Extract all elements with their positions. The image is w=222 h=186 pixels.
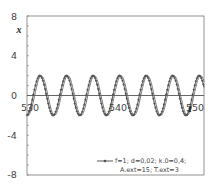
y-tick-8: 8 [11,11,17,22]
y-tick-4: 4 [11,50,17,61]
legend-line2: A.ext=15; T.ext=3 [120,166,179,174]
y-axis-label: x [16,24,22,35]
y-tick-neg4: -4 [7,130,16,141]
x-tick-540: 540 [109,102,127,113]
legend: f=1; d=0,02; k.0=0,4; A.ext=15; T.ext=3 [97,157,186,174]
legend-marker-icon [104,160,107,163]
chart: 8 4 0 -4 -8 x 530 540 550 t f=1; d=0,02;… [0,0,222,186]
y-tick-neg8: -8 [7,169,16,180]
y-tick-0: 0 [11,90,17,101]
x-tick-530: 530 [21,102,39,113]
legend-line1: f=1; d=0,02; k.0=0,4; [115,157,186,165]
